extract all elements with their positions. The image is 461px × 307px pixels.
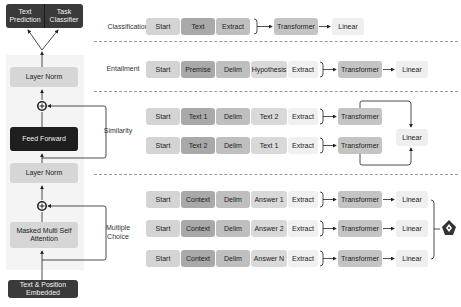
softmax-icon — [442, 220, 456, 235]
add-icon — [38, 202, 46, 210]
connector-lines — [0, 0, 461, 307]
add-icon — [38, 102, 46, 110]
